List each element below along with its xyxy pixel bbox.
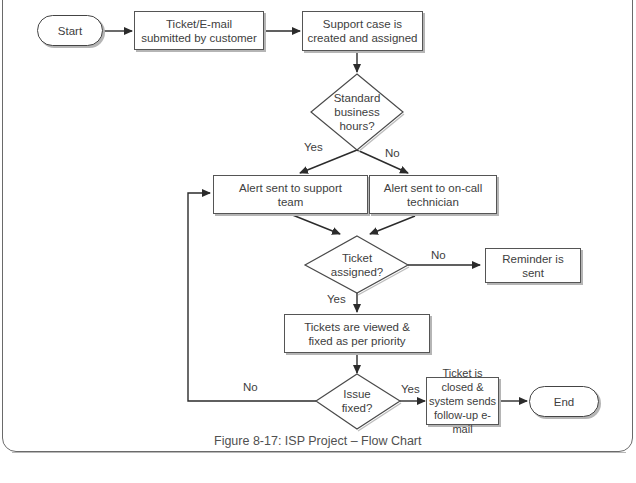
label-assigned-no: No [431, 249, 446, 261]
node-ticket-closed-label: Ticket is closed & system sends follow-u… [427, 366, 498, 436]
figure-caption: Figure 8-17: ISP Project – Flow Chart [214, 434, 422, 448]
node-ticket-closed: Ticket is closed & system sends follow-u… [426, 377, 499, 425]
node-business-hours: Standard business hours? [326, 88, 388, 136]
node-alert-support-label: Alert sent to support team [226, 181, 356, 209]
node-business-hours-label: Standard business hours? [328, 91, 386, 133]
node-reminder: Reminder is sent [485, 248, 581, 283]
label-hours-yes: Yes [304, 141, 323, 153]
node-alert-support: Alert sent to support team [213, 175, 368, 214]
node-case-created-label: Support case is created and assigned [308, 17, 418, 45]
node-case-created: Support case is created and assigned [302, 11, 423, 51]
node-ticket-assigned-label: Ticket assigned? [325, 251, 389, 279]
edge-hours-no [357, 150, 408, 173]
label-fixed-no: No [243, 381, 258, 393]
node-end-label: End [554, 395, 574, 409]
node-start: Start [37, 15, 103, 46]
label-fixed-yes: Yes [401, 383, 420, 395]
node-alert-oncall: Alert sent to on-call technician [369, 175, 497, 214]
node-ticket-submitted: Ticket/E-mail submitted by customer [134, 11, 264, 50]
node-reminder-label: Reminder is sent [496, 252, 571, 280]
node-viewed-fixed-label: Tickets are viewed & fixed as per priori… [291, 320, 423, 348]
edge-hours-yes [300, 150, 357, 173]
node-issue-fixed-label: Issue fixed? [334, 387, 380, 415]
node-start-label: Start [58, 24, 82, 38]
node-alert-oncall-label: Alert sent to on-call technician [376, 181, 491, 209]
node-ticket-assigned: Ticket assigned? [317, 250, 397, 280]
edge-support-assigned [290, 214, 340, 234]
edge-issue-no-loop [188, 193, 316, 401]
label-assigned-yes: Yes [327, 293, 346, 305]
node-end: End [529, 386, 599, 417]
edge-oncall-assigned [370, 216, 415, 234]
node-ticket-submitted-label: Ticket/E-mail submitted by customer [140, 17, 258, 45]
label-hours-no: No [385, 147, 400, 159]
node-viewed-fixed: Tickets are viewed & fixed as per priori… [284, 314, 430, 353]
node-issue-fixed: Issue fixed? [332, 386, 382, 416]
